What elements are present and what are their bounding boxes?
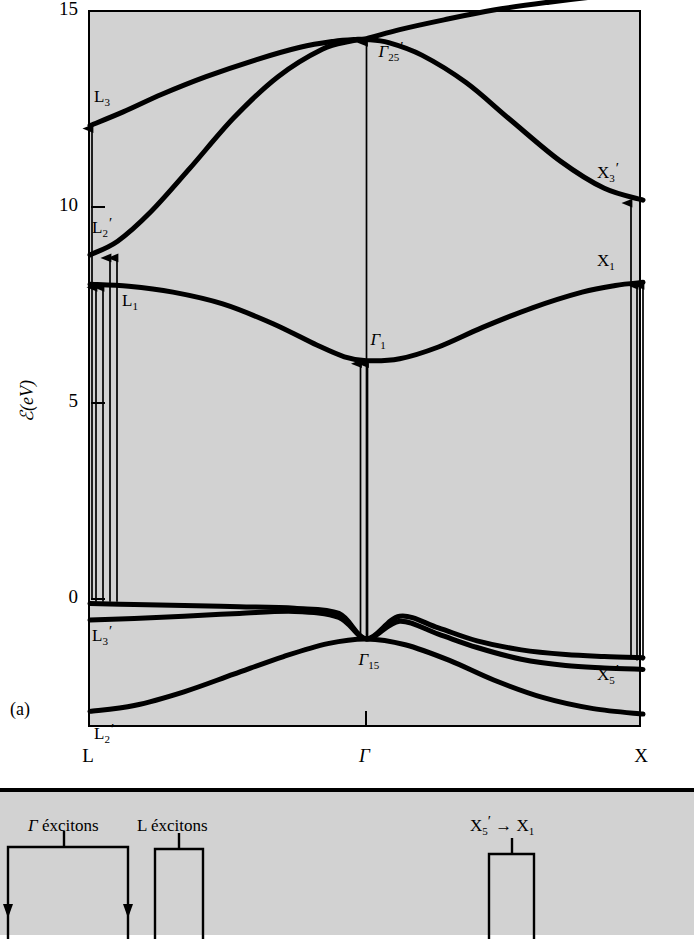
y-tick-mark-0	[91, 598, 105, 600]
y-tick-mark-10	[91, 206, 105, 208]
plot-area	[88, 10, 641, 727]
panel-a-label: (a)	[10, 699, 30, 720]
x-tick-label-X: X	[611, 745, 671, 767]
band-label-X1: X1	[597, 252, 615, 272]
y-tick-label-10: 10	[34, 195, 78, 214]
band-label-G25p: Γ25′	[379, 43, 403, 63]
x-tick-mark-gamma	[365, 711, 367, 727]
y-tick-label-15: 15	[34, 0, 78, 18]
band-label-L1: L1	[122, 292, 138, 312]
exciton-down-arrow-1	[123, 904, 133, 918]
band-label-G1: Γ1	[371, 331, 386, 351]
exciton-panel: Γ éxcitons L éxcitons X5′ → X1	[0, 788, 694, 935]
band-label-X5p: X5′	[597, 666, 618, 686]
x5p-to-x1-label: X5′ → X1	[470, 817, 534, 837]
gamma-excitons-label: Γ éxcitons	[28, 817, 99, 834]
y-tick-label-0: 0	[34, 587, 78, 606]
exciton-brackets	[0, 792, 694, 939]
band-label-G15: Γ15	[359, 651, 380, 671]
x-tick-label-Gamma: Γ	[335, 745, 395, 767]
band-label-L2pv: L2′	[94, 725, 113, 745]
y-tick-mark-5	[91, 402, 105, 404]
x-tick-label-L: L	[58, 745, 118, 767]
band-label-L3p: L3′	[92, 627, 111, 647]
x5p-to-x1-bracket	[489, 838, 534, 939]
band-label-L2p: L2′	[92, 219, 111, 239]
l-excitons-label: L éxcitons	[137, 817, 208, 834]
band-structure-panel: ℰ(eV) (a) 15 10 5 0 L Γ X L3L2′L1L3′L2′Γ…	[0, 0, 694, 780]
exciton-down-arrow-0	[3, 904, 13, 918]
y-tick-label-5: 5	[34, 391, 78, 410]
l-excitons-bracket	[155, 833, 203, 939]
gamma-excitons-bracket	[8, 831, 128, 939]
band-curves	[90, 12, 643, 729]
band-label-L3: L3	[94, 88, 110, 108]
band-label-X3p: X3′	[597, 164, 618, 184]
